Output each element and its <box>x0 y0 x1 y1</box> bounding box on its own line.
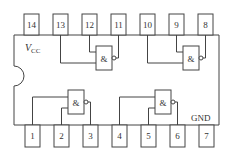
svg-text:13: 13 <box>56 20 66 30</box>
vcc-label: VCC <box>25 42 41 55</box>
pin-1: 1 <box>25 125 40 147</box>
pin-6: 6 <box>170 125 185 147</box>
bottom-pins: 1 2 3 4 5 6 7 <box>25 125 214 147</box>
nand-gate-4: & <box>148 35 206 70</box>
svg-text:1: 1 <box>30 131 35 141</box>
pin-11: 11 <box>111 14 126 35</box>
pin-12: 12 <box>82 14 97 35</box>
pin-5: 5 <box>141 125 156 147</box>
pin-14: 14 <box>24 14 39 35</box>
ic-diagram: 14 13 12 11 10 9 8 1 2 3 4 5 6 7 VCC GND… <box>0 0 235 154</box>
pin-8: 8 <box>198 14 213 35</box>
pin-3: 3 <box>83 125 98 147</box>
pin-7: 7 <box>199 125 214 147</box>
svg-text:&: & <box>187 54 194 64</box>
pin-10: 10 <box>140 14 155 35</box>
pin-2: 2 <box>54 125 69 147</box>
nand-gate-3: & <box>61 35 119 70</box>
nand-gate-2: & <box>120 90 178 125</box>
svg-text:&: & <box>159 98 166 108</box>
svg-text:&: & <box>72 98 79 108</box>
svg-text:12: 12 <box>85 20 94 30</box>
nand-gate-1: & <box>33 90 91 125</box>
svg-text:7: 7 <box>204 131 209 141</box>
svg-text:4: 4 <box>117 131 122 141</box>
pin-9: 9 <box>169 14 184 35</box>
svg-text:8: 8 <box>203 20 208 30</box>
svg-text:3: 3 <box>88 131 93 141</box>
svg-text:10: 10 <box>143 20 153 30</box>
gnd-label: GND <box>191 113 211 123</box>
svg-text:11: 11 <box>114 20 123 30</box>
svg-text:&: & <box>100 54 107 64</box>
svg-text:9: 9 <box>174 20 179 30</box>
svg-text:5: 5 <box>146 131 151 141</box>
svg-text:6: 6 <box>175 131 180 141</box>
pin-4: 4 <box>112 125 127 147</box>
svg-text:2: 2 <box>59 131 64 141</box>
svg-text:14: 14 <box>27 20 37 30</box>
top-pins: 14 13 12 11 10 9 8 <box>24 14 213 35</box>
pin-13: 13 <box>53 14 68 35</box>
